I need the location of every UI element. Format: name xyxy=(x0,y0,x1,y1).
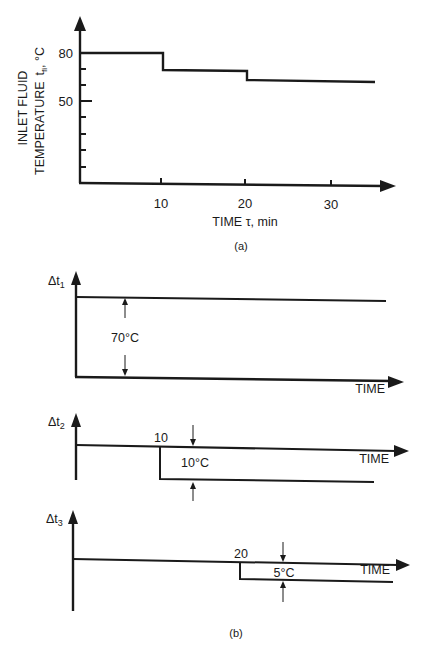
svg-text:TEMPERATUREtfi, °C: TEMPERATUREtfi, °C xyxy=(33,47,49,175)
plot2-y-arrow-icon xyxy=(71,413,81,427)
xtick-label-10: 10 xyxy=(154,196,168,211)
plot3-delta-label: 5°C xyxy=(274,566,295,580)
plot1-dim-arrow-down-icon xyxy=(122,369,128,376)
plot2-x-arrow-icon xyxy=(394,445,409,457)
plot1-dim-arrow-up-icon xyxy=(122,298,128,305)
xtick-label-20: 20 xyxy=(238,196,252,211)
plot2-dim-arrow-up-icon xyxy=(190,482,196,489)
plot1-x-label: TIME xyxy=(355,382,385,396)
plot2-dim-arrow-down-icon xyxy=(190,439,196,446)
caption-b: (b) xyxy=(229,627,242,639)
panel-a: 80 50 10 20 30 TIME τ, min INLET FLUID T… xyxy=(16,16,396,252)
plot1-x-axis xyxy=(75,377,392,381)
plot1-delta-label: 70°C xyxy=(111,331,139,345)
xtick-label-30: 30 xyxy=(324,197,338,212)
plot2-delta-label: 10°C xyxy=(181,456,209,470)
plot-delta-t3: 20 5°C Δt3 TIME xyxy=(46,510,410,611)
inlet-temperature-curve xyxy=(80,53,375,82)
panel-b: 70°C Δt1 TIME 10 10°C Δt2 TIME xyxy=(46,271,410,639)
plot1-y-arrow-icon xyxy=(71,271,81,285)
y-axis-arrow-icon xyxy=(74,16,86,31)
plot3-dim-arrow-down-icon xyxy=(280,555,286,562)
x-axis xyxy=(79,183,384,186)
plot3-x-arrow-icon xyxy=(396,559,410,571)
plot3-x-label: TIME xyxy=(360,563,390,577)
y-label-text: TEMPERATURE xyxy=(33,81,47,175)
plot1-x-arrow-icon xyxy=(388,376,404,388)
plot2-step-time-label: 10 xyxy=(154,431,168,445)
plot2-y-label: Δt2 xyxy=(48,415,65,431)
ytick-label-50: 50 xyxy=(59,94,73,109)
plot2-x-axis xyxy=(76,445,396,451)
plot3-y-arrow-icon xyxy=(68,510,78,524)
plot-delta-t2: 10 10°C Δt2 TIME xyxy=(48,413,409,501)
caption-a: (a) xyxy=(234,240,247,252)
plot-delta-t1: 70°C Δt1 TIME xyxy=(48,271,404,396)
y-ticks xyxy=(80,69,92,167)
y-axis-label-line1: INLET FLUID xyxy=(16,71,30,146)
y-axis-label-line2: TEMPERATUREtfi, °C xyxy=(33,47,49,175)
plot3-dim-arrow-up-icon xyxy=(280,581,286,588)
y-label-unit: , °C xyxy=(33,47,47,68)
plot3-step-time-label: 20 xyxy=(234,547,248,561)
x-axis-label: TIME τ, min xyxy=(212,215,277,229)
plot1-y-label: Δt1 xyxy=(48,274,65,290)
plot3-y-label: Δt3 xyxy=(46,512,63,528)
ytick-label-80: 80 xyxy=(59,46,73,61)
plot1-step-line xyxy=(76,297,386,301)
figure: 80 50 10 20 30 TIME τ, min INLET FLUID T… xyxy=(0,0,425,647)
plot2-x-label: TIME xyxy=(359,452,389,466)
x-axis-arrow-icon xyxy=(380,180,396,192)
